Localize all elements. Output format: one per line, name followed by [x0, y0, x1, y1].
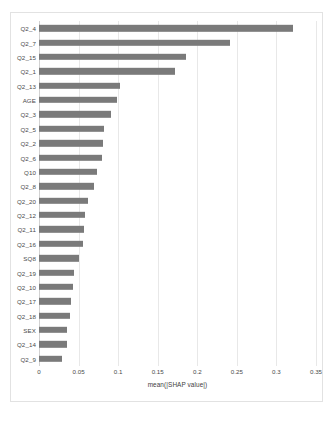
x-tick-label: 0.2 [193, 368, 202, 375]
bar-row: Q2_13 [39, 79, 316, 93]
bar [39, 356, 62, 362]
bar-row: Q10 [39, 165, 316, 179]
bar [39, 197, 88, 203]
y-axis-label: Q2_9 [20, 355, 36, 362]
bar-row: Q2_5 [39, 122, 316, 136]
y-axis-label: Q10 [24, 168, 36, 175]
y-axis-label: Q2_11 [17, 226, 36, 233]
bar [39, 54, 186, 60]
bar [39, 341, 67, 347]
bar [39, 111, 111, 117]
bar-row: Q2_8 [39, 179, 316, 193]
bar [39, 140, 103, 146]
y-axis-label: Q2_5 [20, 125, 36, 132]
y-axis-label: Q2_6 [20, 154, 36, 161]
y-axis-label: Q2_3 [20, 111, 36, 118]
y-axis-label: Q2_10 [17, 283, 36, 290]
bar-row: Q2_11 [39, 222, 316, 236]
y-axis-label: Q2_20 [17, 197, 36, 204]
bar [39, 97, 117, 103]
x-tick-label: 0.15 [152, 368, 164, 375]
bar [39, 298, 71, 304]
x-tick-label: 0.05 [73, 368, 85, 375]
bar-row: Q2_19 [39, 265, 316, 279]
bar-row: Q2_3 [39, 107, 316, 121]
gridline [316, 21, 317, 366]
y-axis-label: SQ8 [23, 255, 36, 262]
bar-row: Q2_10 [39, 280, 316, 294]
bar-row: Q2_9 [39, 352, 316, 366]
x-tick-label: 0.1 [114, 368, 123, 375]
bar-row: Q2_18 [39, 309, 316, 323]
bar [39, 212, 85, 218]
x-tick-label: 0.35 [310, 368, 322, 375]
y-axis-label: Q2_16 [17, 240, 36, 247]
bar [39, 82, 120, 88]
y-axis-label: Q2_1 [20, 68, 36, 75]
y-axis-label: Q2_4 [20, 25, 36, 32]
bar [39, 284, 73, 290]
bar-row: Q2_4 [39, 21, 316, 35]
y-axis-label: Q2_12 [17, 212, 36, 219]
bar [39, 183, 94, 189]
bar-row: Q2_20 [39, 194, 316, 208]
bar [39, 226, 84, 232]
bar-row: AGE [39, 93, 316, 107]
y-axis-label: Q2_14 [17, 341, 36, 348]
y-axis-label: Q2_19 [17, 269, 36, 276]
bar-row: Q2_1 [39, 64, 316, 78]
y-axis-label: Q2_2 [20, 140, 36, 147]
bar [39, 312, 70, 318]
bar-row: Q2_6 [39, 150, 316, 164]
chart-container: Q2_4Q2_7Q2_15Q2_1Q2_13AGEQ2_3Q2_5Q2_2Q2_… [10, 12, 323, 402]
y-axis-label: Q2_17 [17, 298, 36, 305]
x-axis: 00.050.10.150.20.250.30.35 [39, 366, 316, 380]
bar-row: Q2_12 [39, 208, 316, 222]
x-axis-title: mean(|SHAP value|) [39, 381, 316, 388]
bar [39, 169, 97, 175]
y-axis-label: Q2_13 [17, 82, 36, 89]
bar [39, 154, 102, 160]
bar-row: SEX [39, 323, 316, 337]
y-axis-label: Q2_18 [17, 312, 36, 319]
x-tick-label: 0.25 [231, 368, 243, 375]
y-axis-label: Q2_7 [20, 39, 36, 46]
bar [39, 25, 293, 31]
bar-row: Q2_2 [39, 136, 316, 150]
bar [39, 269, 74, 275]
y-axis-label: AGE [23, 97, 36, 104]
bar-row: SQ8 [39, 251, 316, 265]
y-axis-label: Q2_15 [17, 53, 36, 60]
bar-row: Q2_14 [39, 337, 316, 351]
y-axis-label: SEX [23, 327, 36, 334]
x-tick-label: 0.3 [272, 368, 281, 375]
bar [39, 126, 104, 132]
bar [39, 241, 83, 247]
plot-area: Q2_4Q2_7Q2_15Q2_1Q2_13AGEQ2_3Q2_5Q2_2Q2_… [39, 21, 316, 366]
bar-row: Q2_7 [39, 35, 316, 49]
bar [39, 39, 230, 45]
x-tick-label: 0 [37, 368, 40, 375]
y-axis-label: Q2_8 [20, 183, 36, 190]
bar-row: Q2_15 [39, 50, 316, 64]
bar-row: Q2_16 [39, 237, 316, 251]
bar [39, 68, 175, 74]
bar [39, 327, 67, 333]
bar [39, 255, 79, 261]
bar-row: Q2_17 [39, 294, 316, 308]
